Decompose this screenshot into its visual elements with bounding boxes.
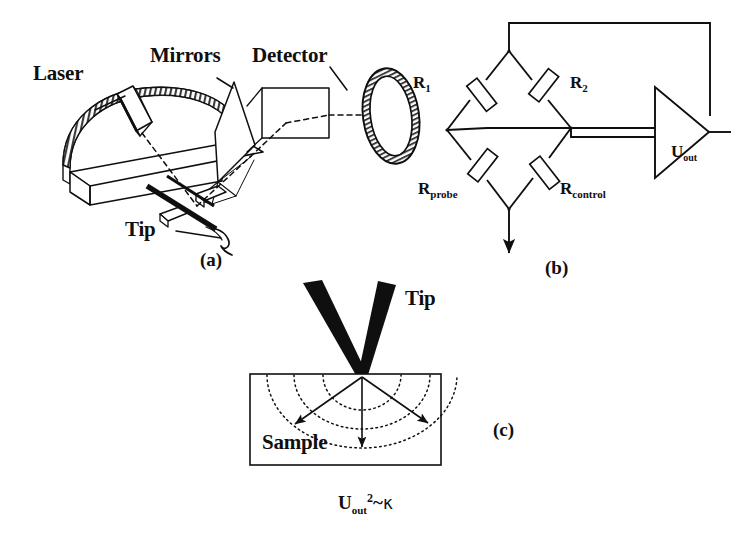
panel-c-caption: (c): [493, 420, 514, 439]
mirror-box: [247, 88, 329, 152]
detector-label: Detector: [252, 45, 327, 66]
wire-r1-to-left: [447, 100, 470, 130]
amplifier-output-sub: out: [683, 152, 697, 163]
figure-root: Laser Mirrors Detector Tip (a) R1 R2 Rpr…: [0, 0, 741, 545]
tip-label-panel-c: Tip: [405, 288, 436, 309]
leader-detector: [330, 67, 347, 90]
wire-r2-to-right: [548, 100, 571, 128]
wire-top-to-r2: [509, 51, 532, 80]
wire-left-to-rprobe: [447, 130, 471, 160]
wire-left-node-to-amp-minus: [447, 128, 655, 130]
wire-right-node-to-amp-plus: [571, 128, 655, 137]
mirror-plate: [215, 82, 255, 182]
resistor-r1-label: R1: [413, 74, 431, 94]
wire-rcontrol-to-bottom: [509, 178, 533, 209]
equation-relation: ~: [373, 492, 383, 513]
resistor-rcontrol-base: R: [560, 179, 572, 198]
resistor-r2-base: R: [570, 73, 582, 92]
resistor-r2-label: R2: [570, 74, 588, 94]
laser-label: Laser: [33, 63, 83, 84]
panel-c-equation: Uout2~κ: [338, 492, 393, 516]
resistor-r1-body: [467, 78, 497, 111]
equation-sub: out: [352, 504, 367, 516]
resistor-rprobe-label: Rprobe: [418, 180, 458, 200]
figure-vector-layer: [0, 0, 741, 545]
amplifier-output-base: U: [671, 142, 683, 161]
resistor-r1-sub: 1: [425, 82, 431, 94]
resistor-r1-base: R: [413, 73, 425, 92]
equation-kappa-symbol: κ: [383, 493, 393, 513]
wire-rprobe-to-bottom: [487, 180, 509, 209]
resistor-rprobe-sub: probe: [430, 188, 457, 200]
amplifier-output-label: Uout: [671, 143, 697, 163]
leader-tip: [176, 231, 221, 238]
panel-a-drawing: [63, 65, 425, 255]
v-tip-left-arm: [303, 280, 366, 377]
amplifier-triangle: [655, 87, 709, 178]
resistor-rcontrol-body: [530, 156, 560, 189]
resistor-rcontrol-sub: control: [572, 188, 605, 200]
v-tip-right-arm: [358, 281, 396, 375]
panel-b-caption: (b): [545, 258, 568, 277]
wire-right-to-rcontrol: [549, 128, 571, 158]
resistor-rprobe-base: R: [418, 179, 430, 198]
resistor-r2-sub: 2: [582, 82, 588, 94]
mirrors-label: Mirrors: [150, 45, 221, 66]
panel-b-drawing: [445, 23, 731, 253]
equation-base: U: [338, 492, 352, 513]
panel-a-caption: (a): [200, 250, 222, 269]
resistor-r2-body: [529, 69, 559, 102]
leader-mirrors: [217, 78, 233, 88]
tip-label-panel-a: Tip: [125, 219, 156, 240]
v-tip-shape: [303, 280, 396, 377]
resistor-rcontrol-label: Rcontrol: [560, 180, 606, 200]
wire-top-to-r1: [486, 51, 509, 80]
resistor-rprobe-body: [468, 149, 498, 182]
sample-label: Sample: [262, 432, 327, 453]
